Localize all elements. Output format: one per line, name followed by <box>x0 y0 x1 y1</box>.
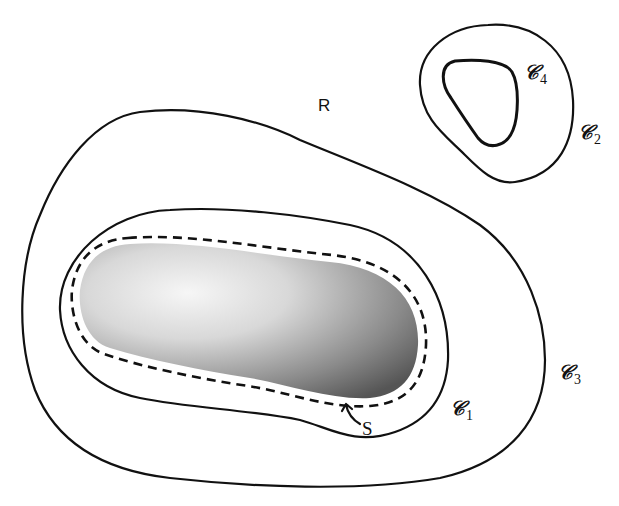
curve-c4 <box>443 60 517 145</box>
curve-symbol: 𝒞 <box>578 120 593 144</box>
curve-subscript: 4 <box>540 72 547 87</box>
surface-label-s: S <box>362 418 373 440</box>
region-label-r: R <box>318 96 330 116</box>
curve-subscript: 2 <box>594 132 601 147</box>
curve-label-c4: 𝒞4 <box>524 60 547 88</box>
curve-subscript: 3 <box>574 372 581 387</box>
curve-label-c1: 𝒞1 <box>450 396 473 424</box>
shaded-region <box>80 243 418 398</box>
curve-c2 <box>420 25 573 183</box>
curve-symbol: 𝒞 <box>450 396 465 420</box>
curve-label-c2: 𝒞2 <box>578 120 601 148</box>
curve-symbol: 𝒞 <box>558 360 573 384</box>
curve-label-c3: 𝒞3 <box>558 360 581 388</box>
s-pointer-arrow <box>346 405 360 424</box>
curve-subscript: 1 <box>466 408 473 423</box>
curve-symbol: 𝒞 <box>524 60 539 84</box>
